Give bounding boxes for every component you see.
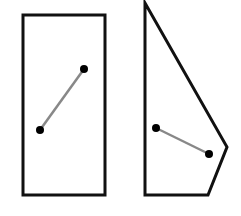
- segment-endpoint: [205, 150, 213, 158]
- rectangle-outline: [23, 15, 105, 195]
- segment-endpoint: [36, 126, 44, 134]
- pentagon-shape: [145, 3, 227, 195]
- rectangle-shape: [23, 15, 105, 195]
- segment-endpoint: [152, 124, 160, 132]
- pentagon-segment: [156, 128, 209, 154]
- rectangle-segment: [40, 69, 84, 130]
- pentagon-outline: [145, 3, 227, 195]
- segment-endpoint: [80, 65, 88, 73]
- diagram-canvas: [0, 0, 241, 216]
- diagram-svg: [0, 0, 241, 216]
